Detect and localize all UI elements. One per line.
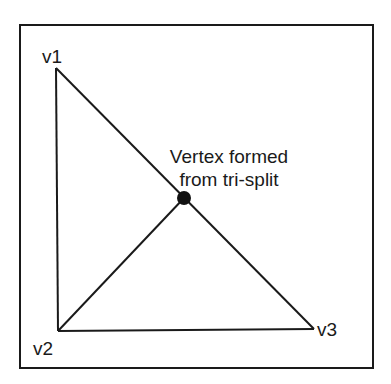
vertex-label-v3: v3	[317, 319, 337, 340]
annotation-line-1: Vertex formed	[170, 146, 288, 167]
edge-v2-split	[58, 198, 184, 331]
split-vertex-dot	[177, 191, 191, 205]
annotation-line-2: from tri-split	[179, 169, 279, 190]
vertex-label-v1: v1	[42, 46, 62, 67]
edge-v1-v2	[56, 68, 58, 331]
edge-v2-v3	[58, 329, 314, 331]
vertex-label-v2: v2	[33, 338, 53, 359]
tri-split-diagram: v1 v2 v3 Vertex formed from tri-split	[0, 0, 391, 384]
